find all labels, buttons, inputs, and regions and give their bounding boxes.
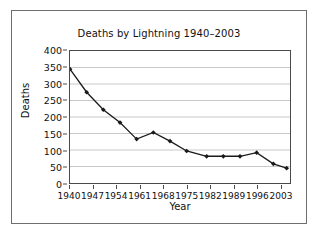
y-axis-tick-mark (63, 66, 67, 67)
x-axis-tick-label: 1982 (199, 191, 222, 201)
y-axis-tick-label: 100 (44, 145, 62, 156)
y-axis-tick-mark (63, 83, 67, 84)
y-axis-tick-mark (63, 150, 67, 151)
x-axis-tick-mark (163, 185, 164, 189)
y-axis-tick-mark (63, 50, 67, 51)
x-axis-tick-label: 1989 (222, 191, 245, 201)
y-axis-tick-labels: 050100150200250300350400 (12, 50, 67, 184)
x-axis-title: Year (69, 201, 291, 212)
chart-title: Deaths by Lightning 1940–2003 (12, 28, 306, 39)
x-axis-tick-label: 1968 (152, 191, 175, 201)
x-axis-tick-label: 1961 (128, 191, 151, 201)
y-axis-tick-mark (63, 117, 67, 118)
series-line (70, 69, 287, 168)
x-axis-tick-label: 1940 (58, 191, 81, 201)
x-axis-tick-labels: 1940194719541961196819751982198919962003 (69, 185, 291, 201)
plot-area (69, 50, 291, 184)
y-axis-tick-label: 50 (50, 162, 62, 173)
y-axis-tick-label: 150 (44, 128, 62, 139)
x-axis-tick-mark (116, 185, 117, 189)
chart-figure: Deaths by Lightning 1940–2003 Deaths 050… (11, 10, 307, 224)
data-point-marker (151, 130, 156, 135)
x-axis-tick-mark (234, 185, 235, 189)
y-axis-tick-label: 200 (44, 112, 62, 123)
y-axis-tick-label: 300 (44, 78, 62, 89)
y-axis-tick-mark (63, 167, 67, 168)
x-axis-tick-mark (281, 185, 282, 189)
x-axis-tick-label: 1954 (105, 191, 128, 201)
data-point-marker (284, 166, 289, 171)
y-axis-tick-label: 400 (44, 45, 62, 56)
x-axis-tick-label: 1975 (175, 191, 198, 201)
x-axis-tick-label: 2003 (269, 191, 292, 201)
y-axis-tick-mark (63, 184, 67, 185)
x-axis-tick-label: 1996 (246, 191, 269, 201)
y-axis-tick-mark (63, 100, 67, 101)
data-point-marker (238, 154, 243, 159)
x-axis-tick-mark (210, 185, 211, 189)
y-axis-tick-label: 250 (44, 95, 62, 106)
data-point-marker (221, 154, 226, 159)
data-series-deaths (70, 51, 290, 183)
x-axis-tick-mark (187, 185, 188, 189)
x-axis-tick-mark (140, 185, 141, 189)
x-axis-tick-mark (69, 185, 70, 189)
x-axis-tick-mark (257, 185, 258, 189)
x-axis-tick-mark (93, 185, 94, 189)
x-axis-tick-label: 1947 (81, 191, 104, 201)
y-axis-tick-label: 350 (44, 61, 62, 72)
y-axis-tick-mark (63, 133, 67, 134)
data-point-marker (204, 154, 209, 159)
y-axis-tick-label: 0 (56, 179, 62, 190)
